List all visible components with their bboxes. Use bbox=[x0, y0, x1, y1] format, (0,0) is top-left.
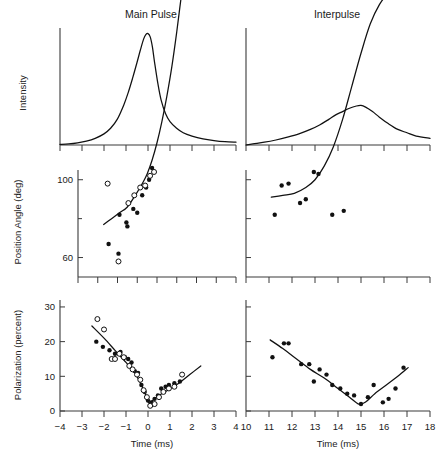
y-axis-label-position-angle: Position Angle (deg) bbox=[12, 179, 23, 264]
data-point-open bbox=[172, 384, 177, 389]
data-point-filled bbox=[307, 362, 311, 366]
data-point-filled bbox=[286, 341, 290, 345]
data-point-filled bbox=[345, 391, 349, 395]
figure-canvas: Main Pulse Interpulse Intensity Position… bbox=[0, 0, 447, 461]
data-point-filled bbox=[131, 207, 135, 211]
data-point-filled bbox=[299, 362, 303, 366]
y-axis-label-polarization: Polarization (percent) bbox=[12, 310, 23, 400]
x-axis-tick-label: −2 bbox=[99, 421, 110, 432]
data-point-filled bbox=[273, 213, 277, 217]
data-point-filled bbox=[101, 345, 105, 349]
data-point-filled bbox=[107, 348, 111, 352]
data-point-filled bbox=[324, 372, 328, 376]
data-point-open bbox=[157, 395, 162, 400]
x-axis-label-time-right: Time (ms) bbox=[317, 438, 359, 449]
data-point-open bbox=[144, 395, 149, 400]
data-point-filled bbox=[371, 383, 375, 387]
data-point-filled bbox=[316, 172, 320, 176]
data-point-filled bbox=[393, 386, 397, 390]
data-point-filled bbox=[117, 213, 121, 217]
data-point-filled bbox=[342, 209, 346, 213]
pulsar-polarization-figure: Main Pulse Interpulse Intensity Position… bbox=[0, 0, 447, 461]
y-axis-tick-label: 0 bbox=[50, 405, 55, 416]
y-axis-tick-label: 30 bbox=[44, 301, 55, 312]
data-point-open bbox=[113, 356, 118, 361]
y-axis-tick-label: 100 bbox=[57, 174, 73, 185]
data-point-open bbox=[105, 181, 110, 186]
data-point-filled bbox=[178, 379, 182, 383]
data-point-filled bbox=[317, 367, 321, 371]
data-point-open bbox=[152, 169, 157, 174]
data-point-open bbox=[130, 367, 135, 372]
y-axis-tick-label: 60 bbox=[62, 252, 73, 263]
x-axis-tick-label: −3 bbox=[77, 421, 88, 432]
data-point-open bbox=[117, 351, 122, 356]
data-point-open bbox=[132, 193, 137, 198]
data-point-filled bbox=[304, 197, 308, 201]
data-point-filled bbox=[135, 211, 139, 215]
x-axis-tick-label: 14 bbox=[333, 421, 344, 432]
data-point-filled bbox=[116, 251, 120, 255]
data-point-filled bbox=[352, 393, 356, 397]
data-point-open bbox=[135, 372, 140, 377]
data-point-filled bbox=[106, 242, 110, 246]
data-point-open bbox=[121, 355, 126, 360]
data-point-open bbox=[116, 259, 121, 264]
data-point-open bbox=[102, 327, 107, 332]
data-point-filled bbox=[282, 341, 286, 345]
data-point-filled bbox=[125, 224, 129, 228]
data-point-open bbox=[138, 377, 143, 382]
data-point-filled bbox=[366, 395, 370, 399]
data-point-filled bbox=[279, 183, 283, 187]
y-axis-tick-label: 10 bbox=[44, 371, 55, 382]
data-point-filled bbox=[312, 170, 316, 174]
x-axis-tick-label: 2 bbox=[189, 421, 194, 432]
data-point-filled bbox=[124, 220, 128, 224]
x-axis-tick-label: 4 bbox=[233, 421, 238, 432]
data-point-filled bbox=[298, 201, 302, 205]
data-point-filled bbox=[338, 386, 342, 390]
data-point-open bbox=[126, 201, 131, 206]
y-axis-label-intensity: Intensity bbox=[17, 75, 28, 111]
data-point-filled bbox=[139, 383, 143, 387]
x-axis-tick-label: 13 bbox=[310, 421, 321, 432]
panel-title-interpulse: Interpulse bbox=[314, 8, 360, 20]
data-point-filled bbox=[381, 400, 385, 404]
data-point-filled bbox=[401, 365, 405, 369]
data-point-open bbox=[138, 185, 143, 190]
y-axis-tick-label: 20 bbox=[44, 336, 55, 347]
x-axis-tick-label: −4 bbox=[55, 421, 66, 432]
data-point-open bbox=[148, 173, 153, 178]
data-point-filled bbox=[286, 181, 290, 185]
data-point-open bbox=[143, 183, 148, 188]
data-point-filled bbox=[386, 397, 390, 401]
x-axis-tick-label: 15 bbox=[356, 421, 367, 432]
data-point-filled bbox=[140, 193, 144, 197]
x-axis-tick-label: 11 bbox=[264, 421, 274, 432]
data-point-open bbox=[180, 372, 185, 377]
x-axis-tick-label: 17 bbox=[402, 421, 413, 432]
data-point-open bbox=[141, 388, 146, 393]
data-point-open bbox=[152, 402, 157, 407]
x-axis-tick-label: 18 bbox=[425, 421, 436, 432]
data-point-filled bbox=[270, 355, 274, 359]
x-axis-tick-label: 10 bbox=[241, 421, 252, 432]
data-point-filled bbox=[94, 339, 98, 343]
data-point-filled bbox=[359, 402, 363, 406]
x-axis-tick-label: 12 bbox=[287, 421, 298, 432]
x-axis-label-time-left: Time (ms) bbox=[131, 438, 173, 449]
data-point-filled bbox=[330, 213, 334, 217]
x-axis-tick-label: 1 bbox=[167, 421, 172, 432]
x-axis-tick-label: 3 bbox=[211, 421, 216, 432]
x-axis-tick-label: 16 bbox=[379, 421, 390, 432]
data-point-filled bbox=[312, 379, 316, 383]
data-point-open bbox=[95, 317, 100, 322]
data-point-filled bbox=[330, 383, 334, 387]
x-axis-tick-label: 0 bbox=[145, 421, 150, 432]
figure-background bbox=[0, 0, 447, 461]
panel-title-main-pulse: Main Pulse bbox=[125, 8, 177, 20]
x-axis-tick-label: −1 bbox=[121, 421, 132, 432]
data-point-open bbox=[166, 386, 171, 391]
data-point-open bbox=[161, 389, 166, 394]
